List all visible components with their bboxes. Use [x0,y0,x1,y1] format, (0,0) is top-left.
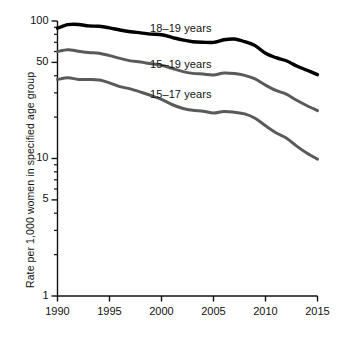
x-tick-label-1990: 1990 [43,305,73,317]
series-label-3: 15–17 years [150,88,212,100]
y-tick-label-50: 50 [36,55,48,67]
x-tick-label-2005: 2005 [199,305,229,317]
x-tick-label-2015: 2015 [303,305,333,317]
y-tick-label-1: 1 [42,289,48,301]
plot-area [0,0,340,338]
y-axis-ticks [52,21,58,296]
y-tick-label-5: 5 [42,192,48,204]
teen-birth-rate-chart: Rate per 1,000 women in specified age gr… [0,0,340,338]
y-tick-label-10: 10 [36,151,48,163]
x-tick-label-2000: 2000 [147,305,177,317]
x-tick-label-2010: 2010 [251,305,281,317]
y-tick-label-100: 100 [30,14,48,26]
series-label-2: 15–19 years [150,58,212,70]
x-tick-label-1995: 1995 [95,305,125,317]
x-axis-ticks [58,296,318,302]
series-label-1: 18–19 years [150,22,212,34]
